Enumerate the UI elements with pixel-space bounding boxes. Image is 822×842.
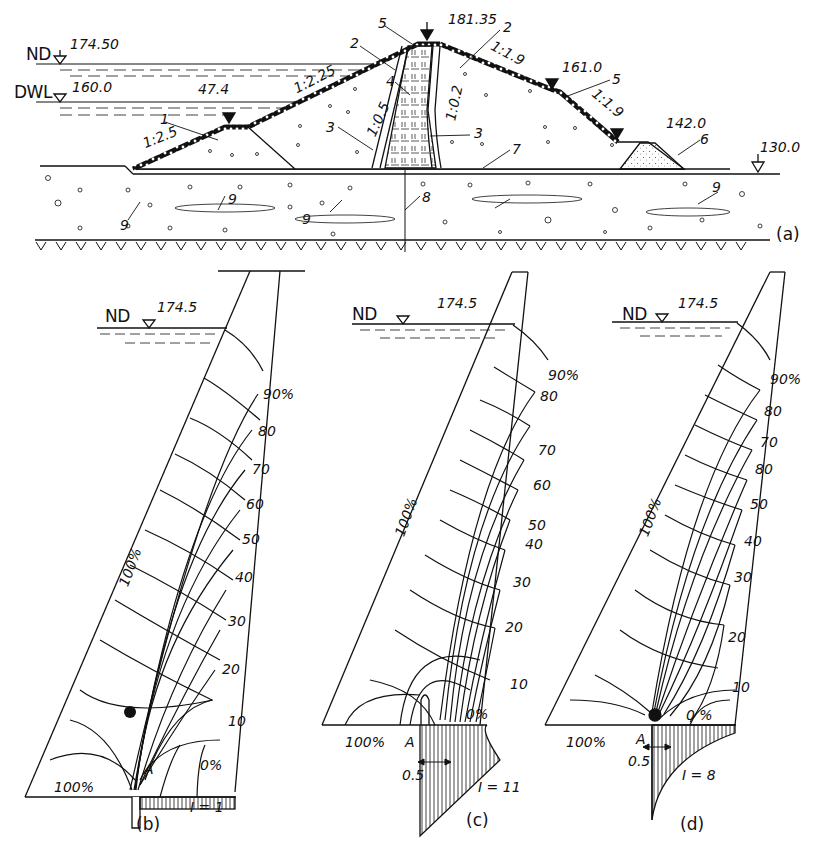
component-9b-label: 9 (228, 192, 237, 206)
component-8-label: 8 (422, 190, 431, 204)
point-a-b: A (144, 762, 154, 776)
figure-b-caption: (b) (136, 816, 160, 833)
nd-elevation-c: 174.5 (437, 296, 477, 310)
scale-20-b: 20 (222, 662, 240, 676)
figure-c-caption: (c) (466, 812, 489, 829)
scale-50-d: 50 (750, 497, 768, 511)
flow-net-b (25, 271, 305, 828)
gradient-label-b: I = 1 (190, 800, 224, 814)
scale-30-b: 30 (228, 614, 246, 628)
scale-10-b: 10 (228, 714, 246, 728)
scale-90-d: 90% (770, 372, 801, 386)
scale-90-c: 90% (548, 368, 579, 382)
flow-net-c (322, 272, 548, 836)
scale-30-d: 30 (734, 570, 752, 584)
nd-elevation-b: 174.5 (157, 300, 197, 314)
nd-label-d: ND (622, 306, 647, 323)
ground-elevation: 130.0 (760, 140, 800, 154)
scale-40-c: 40 (525, 537, 543, 551)
scale-80-b: 80 (258, 424, 276, 438)
dwl-elevation: 160.0 (72, 80, 112, 94)
component-9c-label: 9 (302, 212, 311, 226)
figure-a-caption: (a) (776, 226, 800, 243)
bottom-100pct-c: 100% (345, 735, 385, 749)
point-a-c: A (405, 735, 415, 749)
downstream-berm-elevation: 161.0 (562, 60, 602, 74)
upstream-berm-elevation: 47.4 (198, 82, 229, 96)
scale-10-c: 10 (510, 677, 528, 691)
dimension-c: 0.5 (402, 768, 424, 782)
component-2b-label: 2 (503, 20, 512, 34)
scale-40-d: 40 (744, 534, 762, 548)
dwl-label: DWL (14, 84, 52, 101)
zero-pct-b: 0% (200, 758, 222, 772)
bottom-100pct-b: 100% (54, 780, 94, 794)
component-2-label: 2 (350, 36, 359, 50)
nd-label-c: ND (352, 306, 377, 323)
component-5-label: 5 (378, 16, 387, 30)
gradient-label-d: I = 8 (682, 768, 716, 782)
component-7-label: 7 (512, 142, 521, 156)
dimension-d: 0.5 (628, 754, 650, 768)
scale-30-c: 30 (513, 575, 531, 589)
scale-10-d: 10 (732, 680, 750, 694)
component-4-label: 4 (386, 74, 395, 88)
bottom-100pct-d: 100% (566, 735, 606, 749)
scale-70-c: 70 (538, 443, 556, 457)
crest-elevation: 181.35 (448, 12, 497, 26)
scale-20-d: 20 (728, 630, 746, 644)
nd-label-a: ND (26, 46, 51, 63)
zero-pct-d: 0 % (686, 708, 713, 722)
nd-elevation-a: 174.50 (70, 37, 119, 51)
nd-elevation-d: 174.5 (678, 296, 718, 310)
component-1-label: 1 (160, 112, 169, 126)
scale-60-c: 60 (533, 478, 551, 492)
toe-elevation: 142.0 (666, 116, 706, 130)
scale-60-b: 60 (246, 497, 264, 511)
scale-40-b: 40 (235, 570, 253, 584)
component-3b-label: 3 (474, 126, 483, 140)
component-9-label: 9 (120, 218, 129, 232)
scale-80b-d: 80 (755, 462, 773, 476)
nd-label-b: ND (105, 308, 130, 325)
scale-80-c: 80 (540, 389, 558, 403)
scale-50-c: 50 (528, 518, 546, 532)
gradient-label-c: I = 11 (478, 780, 521, 794)
figure-d-caption: (d) (680, 816, 704, 833)
scale-70-b: 70 (252, 462, 270, 476)
scale-50-b: 50 (242, 532, 260, 546)
scale-20-c: 20 (505, 620, 523, 634)
component-6-label: 6 (700, 132, 709, 146)
scale-80-d: 80 (764, 404, 782, 418)
scale-70-d: 70 (760, 435, 778, 449)
point-a-d: A (636, 732, 646, 746)
component-5b-label: 5 (612, 72, 621, 86)
scale-90-b: 90% (263, 387, 294, 401)
component-3-label: 3 (326, 120, 335, 134)
flow-net-b-convergence (124, 706, 136, 718)
component-9d-label: 9 (712, 180, 721, 194)
zero-pct-c: 0% (466, 707, 488, 721)
